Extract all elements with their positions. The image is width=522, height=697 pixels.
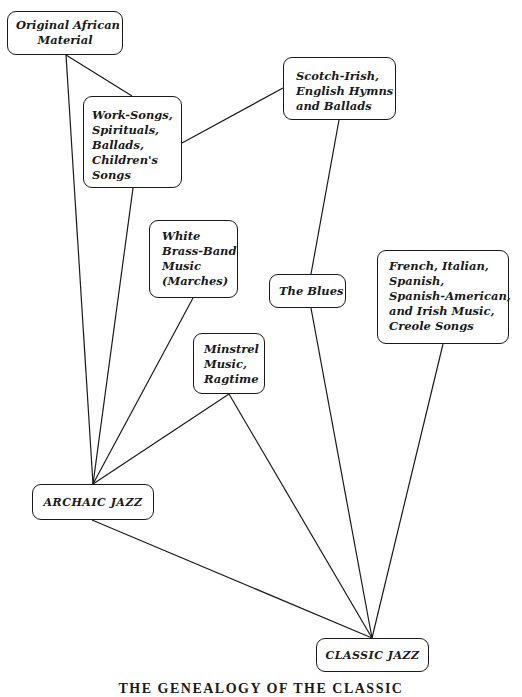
edge-minstrel-classic [229, 394, 372, 638]
node-label-line: Spirituals, [92, 123, 173, 138]
diagram-caption: THE GENEALOGY OF THE CLASSIC [0, 681, 522, 697]
node-classic-jazz: CLASSIC JAZZ [316, 638, 429, 672]
node-label-line: French, Italian, [389, 259, 500, 274]
node-minstrel-music-ragtime: Minstrel Music, Ragtime [193, 333, 265, 394]
node-label-line: English Hymns [296, 84, 387, 99]
edge-scotch-blues [311, 120, 339, 274]
node-label-line: Ballads, [92, 138, 173, 153]
node-the-blues: The Blues [269, 274, 346, 308]
node-label-line: and Irish Music, [389, 304, 500, 319]
edge-white-archaic [93, 298, 193, 484]
node-label-line: Ragtime [204, 372, 256, 387]
node-label-line: ARCHAIC JAZZ [41, 495, 145, 510]
edge-work-scotch [182, 88, 283, 143]
node-archaic-jazz: ARCHAIC JAZZ [32, 484, 154, 520]
node-label-line: CLASSIC JAZZ [325, 648, 420, 663]
edge-archaic-classic [92, 520, 372, 638]
node-label-line: Scotch-Irish, [296, 69, 387, 84]
node-label-line: The Blues [279, 284, 337, 299]
node-scotch-irish-english-hymns: Scotch-Irish, English Hymns and Ballads [283, 57, 396, 120]
node-label-line: Spanish-American, [389, 289, 500, 304]
node-label-line: Music, [204, 357, 256, 372]
node-label-line: (Marches) [162, 274, 229, 289]
node-label-line: Material [16, 33, 114, 48]
node-white-brass-band-music: White Brass-Band Music (Marches) [149, 220, 238, 298]
edge-blues-classic [311, 308, 372, 638]
node-label-line: Songs [92, 168, 173, 183]
node-label-line: Brass-Band [162, 244, 229, 259]
node-label-line: Minstrel [204, 342, 256, 357]
edge-work-archaic [93, 188, 133, 484]
node-label-line: Work-Songs, [92, 108, 173, 123]
node-label-line: and Ballads [296, 99, 387, 114]
node-label-line: Music [162, 259, 229, 274]
node-label-line: Spanish, [389, 274, 500, 289]
edge-french-classic [372, 344, 443, 638]
node-original-african-material: Original African Material [7, 11, 123, 55]
edge-minstrel-archaic [93, 394, 229, 484]
node-label-line: Original African [16, 18, 114, 33]
edge-african-work [66, 55, 132, 96]
node-label-line: Children's [92, 153, 173, 168]
node-label-line: Creole Songs [389, 319, 500, 334]
node-label-line: White [162, 229, 229, 244]
node-french-italian-spanish-creole: French, Italian, Spanish, Spanish-Americ… [377, 250, 509, 344]
node-work-songs-spirituals: Work-Songs, Spirituals, Ballads, Childre… [83, 96, 182, 188]
